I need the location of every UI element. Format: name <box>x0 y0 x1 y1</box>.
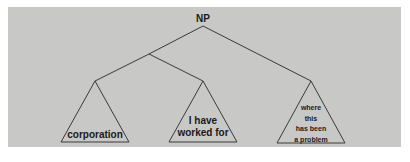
leaf-2-line-1: I have <box>169 115 237 127</box>
edge-inner-to-leaf-2 <box>149 54 203 81</box>
leaf-3-line-1: where <box>277 103 345 114</box>
leaf-3-label: where this has been a problem <box>277 103 345 145</box>
leaf-3-line-4: a problem <box>277 135 345 146</box>
edge-root-to-inner <box>149 26 203 54</box>
edge-root-to-leaf-3 <box>203 26 311 81</box>
leaf-2-line-2: worked for <box>169 127 237 139</box>
root-node-label: NP <box>193 14 213 24</box>
diagram-canvas: NP corporation I have worked for where t… <box>0 0 410 162</box>
leaf-1-line-1: corporation <box>61 130 129 140</box>
leaf-2-label: I have worked for <box>169 115 237 139</box>
leaf-3-line-2: this <box>277 114 345 125</box>
leaf-3-line-3: has been <box>277 124 345 135</box>
leaf-1-label: corporation <box>61 130 129 140</box>
edge-inner-to-leaf-1 <box>95 54 149 81</box>
